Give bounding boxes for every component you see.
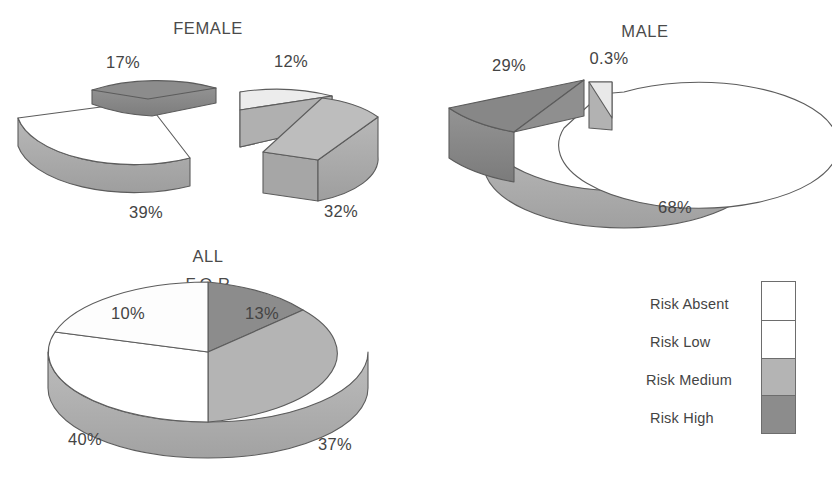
legend-swatch-risk-high [762,395,795,433]
risk-pie-chart-figure: FEMALE [0,0,832,489]
legend-swatch-stack [761,281,796,434]
risk-legend: Risk Absent Risk Low Risk Medium Risk Hi… [0,0,832,489]
legend-swatch-risk-absent [762,282,795,320]
legend-swatch-risk-low [762,320,795,358]
legend-label-risk-low: Risk Low [650,334,710,350]
legend-label-risk-medium: Risk Medium [646,372,732,388]
legend-swatch-risk-medium [762,358,795,396]
legend-label-risk-high: Risk High [650,410,714,426]
legend-label-risk-absent: Risk Absent [650,296,729,312]
